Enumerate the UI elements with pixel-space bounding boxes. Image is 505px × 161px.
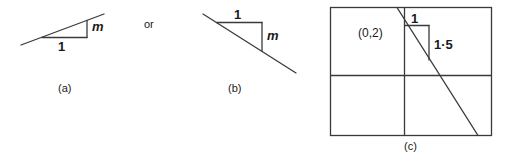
panel-b-graphics	[203, 14, 296, 73]
panel-c-caption: (c)	[404, 141, 417, 152]
panel-b-run-label: 1	[234, 8, 241, 21]
panel-c-graphics	[331, 8, 492, 136]
panel-c-rise-label: 1·5	[434, 38, 453, 51]
panel-b-rise-label: m	[267, 29, 279, 42]
or-connector-label: or	[144, 19, 154, 30]
figure-gradient-diagrams: 1 m (a) or 1 m (b) (0,2) 1 1·5 (c)	[0, 0, 505, 161]
panel-c-plotted-line	[397, 8, 478, 136]
panel-c-intercept-label: (0,2)	[358, 27, 383, 39]
figure-linework	[0, 0, 505, 161]
panel-a-rise-label: m	[92, 20, 104, 33]
panel-c-run-label: 1	[411, 12, 418, 25]
panel-b-caption: (b)	[228, 83, 241, 94]
panel-a-run-label: 1	[58, 40, 65, 53]
panel-c-frame	[331, 8, 492, 136]
panel-a-caption: (a)	[58, 83, 71, 94]
